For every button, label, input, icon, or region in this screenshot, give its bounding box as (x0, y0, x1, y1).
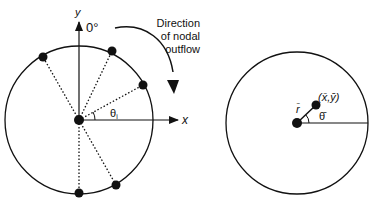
theta-bar-arc (306, 115, 309, 123)
theta-bar-label: θ̄ (319, 110, 327, 122)
radius-bar-label: r̄ (296, 103, 301, 115)
radial-dotted-lines (43, 51, 143, 193)
node (75, 189, 84, 198)
theta-arc (93, 112, 95, 120)
centroid-label: (x̄,ȳ) (318, 91, 340, 103)
y-axis-label: y (74, 6, 82, 18)
flow-arrowhead-icon (167, 80, 179, 94)
right-diagram: (x̄,ȳ) r̄ θ̄ (226, 52, 368, 194)
caption-line-2: of nodal (140, 30, 200, 43)
caption-line-1: Direction (140, 17, 200, 30)
node (108, 47, 117, 56)
node (112, 181, 121, 190)
theta-i-label: θi (110, 107, 118, 120)
caption-line-3: outflow (140, 43, 200, 56)
x-axis-label: x (181, 113, 189, 127)
node (39, 53, 48, 62)
zero-angle-label: 0° (86, 20, 98, 35)
node (139, 81, 148, 90)
node-center (74, 115, 84, 125)
flow-direction-caption: Direction of nodal outflow (140, 17, 200, 56)
center-node (292, 118, 302, 128)
